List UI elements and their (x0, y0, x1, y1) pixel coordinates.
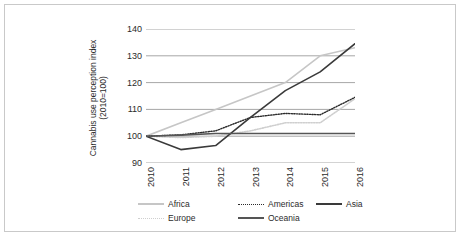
x-axis-tick-label: 2013 (244, 165, 258, 197)
legend-item-europe[interactable]: Europe (138, 212, 195, 224)
y-axis-title-line1: Cannabis use perception index (88, 40, 98, 157)
series-line-oceania (146, 134, 355, 137)
x-axis-tick-label: 2012 (209, 165, 223, 197)
legend-row: AfricaAmericasAsia (138, 198, 373, 210)
legend-swatch-europe (138, 218, 164, 219)
x-axis-tick-label: 2016 (348, 165, 362, 197)
y-axis-tick-labels: 14013012011010090 (112, 29, 142, 163)
plot-area (146, 29, 355, 163)
y-axis-title: Cannabis use perception index (2010=100) (86, 18, 110, 178)
legend-item-americas[interactable]: Americas (238, 198, 303, 210)
x-axis-tick-label: 2010 (139, 165, 153, 197)
y-axis-tick-label: 120 (116, 78, 142, 88)
legend-item-africa[interactable]: Africa (138, 198, 190, 210)
plot-svg (146, 29, 355, 163)
legend-row: EuropeOceania (138, 212, 373, 224)
legend-label: Africa (168, 199, 190, 209)
legend-item-asia[interactable]: Asia (316, 198, 363, 210)
x-axis-tick-label: 2011 (174, 165, 188, 197)
legend-label: Asia (346, 199, 363, 209)
legend-swatch-americas (238, 204, 264, 205)
legend-label: Oceania (268, 213, 300, 223)
y-axis-tick-label: 110 (116, 104, 142, 114)
legend-label: Europe (168, 213, 195, 223)
legend-swatch-oceania (238, 217, 264, 219)
legend-swatch-africa (138, 203, 164, 205)
y-axis-tick-label: 140 (116, 24, 142, 34)
x-axis-tick-label: 2014 (278, 165, 292, 197)
legend-label: Americas (268, 199, 303, 209)
y-axis-tick-label: 100 (116, 131, 142, 141)
chart-legend: AfricaAmericasAsiaEuropeOceania (138, 198, 373, 226)
chart-figure: Cannabis use perception index (2010=100)… (0, 0, 465, 243)
y-axis-tick-label: 130 (116, 51, 142, 61)
legend-swatch-asia (316, 203, 342, 205)
series-line-africa (146, 48, 355, 136)
x-axis-tick-label: 2015 (313, 165, 327, 197)
x-axis-tick-labels: 2010201120122013201420152016 (146, 165, 355, 197)
y-axis-title-line2: (2010=100) (98, 40, 108, 157)
legend-item-oceania[interactable]: Oceania (238, 212, 300, 224)
